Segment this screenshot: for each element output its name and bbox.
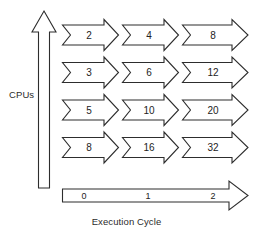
right-arrow-icon bbox=[63, 181, 249, 210]
grid-row: 5 10 20 bbox=[63, 95, 249, 126]
axis-tick-label: 2 bbox=[210, 191, 215, 201]
grid-cell-value: 6 bbox=[146, 67, 152, 78]
grid-cell-value: 10 bbox=[143, 105, 155, 116]
axis-tick-label: 1 bbox=[145, 191, 150, 201]
cpus-axis-arrow bbox=[32, 11, 56, 188]
grid-cell-value: 4 bbox=[146, 30, 152, 41]
grid-row: 3 6 12 bbox=[63, 57, 249, 88]
grid-cell-value: 12 bbox=[207, 67, 219, 78]
up-arrow-icon bbox=[32, 11, 56, 188]
grid-cell-value: 32 bbox=[207, 142, 219, 153]
grid-cell-value: 20 bbox=[207, 105, 219, 116]
cpus-axis-label: CPUs bbox=[9, 89, 34, 100]
axis-tick-label: 0 bbox=[81, 191, 86, 201]
grid-cell-value: 3 bbox=[86, 67, 92, 78]
grid-cell-value: 2 bbox=[86, 30, 92, 41]
grid-cell-value: 16 bbox=[143, 142, 155, 153]
grid-cell-value: 8 bbox=[86, 142, 92, 153]
execution-cycle-axis-label: Execution Cycle bbox=[0, 216, 253, 227]
grid-row: 8 16 32 bbox=[63, 132, 249, 163]
grid-cell-value: 8 bbox=[210, 30, 216, 41]
diagram-svg: 2 4 8 3 6 12 5 10 20 8 bbox=[0, 0, 253, 239]
grid-row: 2 4 8 bbox=[63, 20, 249, 51]
execution-cycle-axis-arrow: 0 1 2 bbox=[63, 181, 249, 210]
diagram-canvas: 2 4 8 3 6 12 5 10 20 8 bbox=[0, 0, 253, 239]
grid-cell-value: 5 bbox=[86, 105, 92, 116]
